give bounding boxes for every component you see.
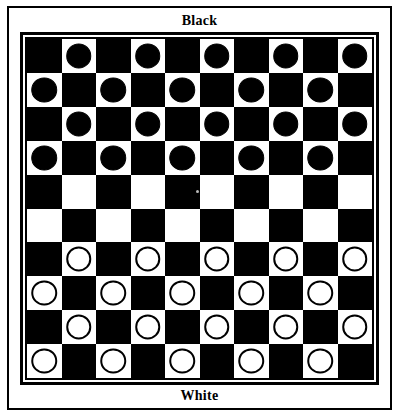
- black-piece[interactable]: [204, 43, 230, 68]
- board-square[interactable]: [269, 175, 304, 209]
- board-square[interactable]: [96, 175, 131, 209]
- white-piece[interactable]: [135, 315, 161, 340]
- black-piece[interactable]: [204, 111, 230, 136]
- board-square[interactable]: [303, 242, 338, 276]
- board-square[interactable]: [234, 209, 269, 243]
- board-square[interactable]: [338, 344, 373, 378]
- black-piece[interactable]: [169, 145, 195, 170]
- board-square[interactable]: [303, 73, 338, 107]
- board-square[interactable]: [303, 209, 338, 243]
- board-square[interactable]: [165, 39, 200, 73]
- board-square[interactable]: [200, 344, 235, 378]
- board-square[interactable]: [338, 107, 373, 141]
- black-piece[interactable]: [342, 43, 368, 68]
- board-square[interactable]: [338, 209, 373, 243]
- board-square[interactable]: [131, 310, 166, 344]
- black-piece[interactable]: [307, 145, 333, 170]
- white-piece[interactable]: [273, 315, 299, 340]
- board-square[interactable]: [338, 141, 373, 175]
- board-square[interactable]: [131, 73, 166, 107]
- white-piece[interactable]: [204, 315, 230, 340]
- board-square[interactable]: [200, 209, 235, 243]
- board-square[interactable]: [200, 39, 235, 73]
- board-square[interactable]: [96, 107, 131, 141]
- board-square[interactable]: [303, 141, 338, 175]
- board-square[interactable]: [62, 175, 97, 209]
- board-square[interactable]: [165, 175, 200, 209]
- black-piece[interactable]: [273, 43, 299, 68]
- board-square[interactable]: [269, 73, 304, 107]
- board-square[interactable]: [269, 242, 304, 276]
- board-square[interactable]: [96, 242, 131, 276]
- board-square[interactable]: [269, 107, 304, 141]
- board-square[interactable]: [131, 276, 166, 310]
- board-square[interactable]: [303, 344, 338, 378]
- board-square[interactable]: [27, 344, 62, 378]
- board-square[interactable]: [27, 209, 62, 243]
- black-piece[interactable]: [307, 77, 333, 102]
- white-piece[interactable]: [307, 281, 333, 306]
- white-piece[interactable]: [100, 281, 126, 306]
- board-square[interactable]: [303, 276, 338, 310]
- board-square[interactable]: [27, 73, 62, 107]
- board-square[interactable]: [200, 107, 235, 141]
- board-square[interactable]: [269, 310, 304, 344]
- white-piece[interactable]: [66, 247, 92, 272]
- board-square[interactable]: [269, 344, 304, 378]
- board-square[interactable]: [165, 209, 200, 243]
- board-square[interactable]: [338, 310, 373, 344]
- board-square[interactable]: [234, 175, 269, 209]
- board-square[interactable]: [165, 107, 200, 141]
- black-piece[interactable]: [66, 43, 92, 68]
- white-piece[interactable]: [169, 281, 195, 306]
- board-square[interactable]: [234, 73, 269, 107]
- board-square[interactable]: [338, 73, 373, 107]
- board-square[interactable]: [165, 276, 200, 310]
- board-square[interactable]: [62, 344, 97, 378]
- board-square[interactable]: [338, 242, 373, 276]
- board-square[interactable]: [303, 310, 338, 344]
- board-square[interactable]: [131, 107, 166, 141]
- board-square[interactable]: [62, 209, 97, 243]
- board-square[interactable]: [303, 39, 338, 73]
- black-piece[interactable]: [169, 77, 195, 102]
- board-square[interactable]: [303, 175, 338, 209]
- black-piece[interactable]: [100, 77, 126, 102]
- white-piece[interactable]: [342, 315, 368, 340]
- board-square[interactable]: [234, 141, 269, 175]
- black-piece[interactable]: [135, 111, 161, 136]
- board-square[interactable]: [200, 276, 235, 310]
- white-piece[interactable]: [204, 247, 230, 272]
- board-square[interactable]: [62, 107, 97, 141]
- board-square[interactable]: [234, 39, 269, 73]
- black-piece[interactable]: [238, 77, 264, 102]
- board-square[interactable]: [62, 276, 97, 310]
- board-square[interactable]: [200, 175, 235, 209]
- board-square[interactable]: [131, 344, 166, 378]
- board-square[interactable]: [27, 107, 62, 141]
- white-piece[interactable]: [66, 315, 92, 340]
- board-square[interactable]: [62, 73, 97, 107]
- black-piece[interactable]: [238, 145, 264, 170]
- board-square[interactable]: [62, 242, 97, 276]
- white-piece[interactable]: [169, 349, 195, 374]
- board-square[interactable]: [234, 276, 269, 310]
- board-square[interactable]: [269, 141, 304, 175]
- board-square[interactable]: [165, 141, 200, 175]
- white-piece[interactable]: [238, 349, 264, 374]
- white-piece[interactable]: [238, 281, 264, 306]
- board-square[interactable]: [234, 344, 269, 378]
- black-piece[interactable]: [31, 77, 57, 102]
- board-square[interactable]: [27, 242, 62, 276]
- board-square[interactable]: [200, 242, 235, 276]
- board-square[interactable]: [269, 276, 304, 310]
- board-square[interactable]: [96, 39, 131, 73]
- black-piece[interactable]: [273, 111, 299, 136]
- board-square[interactable]: [234, 242, 269, 276]
- board-square[interactable]: [96, 276, 131, 310]
- white-piece[interactable]: [31, 349, 57, 374]
- board-square[interactable]: [269, 209, 304, 243]
- board-square[interactable]: [96, 344, 131, 378]
- board-square[interactable]: [96, 73, 131, 107]
- white-piece[interactable]: [100, 349, 126, 374]
